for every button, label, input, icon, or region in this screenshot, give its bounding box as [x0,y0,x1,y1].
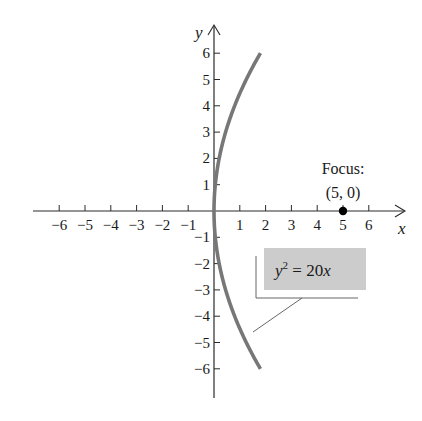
parabola-chart: xy −6−5−4−3−2−1123456−6−5−4−3−2−1123456 … [0,0,422,421]
focus-coords: (5, 0) [326,184,361,202]
x-tick-label: −2 [154,217,170,233]
callout-leader-line [253,298,302,332]
y-tick-label: −4 [194,308,210,324]
x-tick-label: 4 [313,217,321,233]
y-tick-label: 2 [203,150,211,166]
y-tick-label: 6 [203,45,211,61]
y-tick-label: −3 [194,282,210,298]
equation-label: y2 = 20x [273,259,331,280]
y-tick-label: 4 [203,98,211,114]
y-tick-label: 5 [203,72,211,88]
y-tick-label: 1 [203,177,211,193]
x-tick-label: 6 [365,217,373,233]
x-axis-label: x [397,219,406,238]
chart-canvas: xy −6−5−4−3−2−1123456−6−5−4−3−2−1123456 … [0,0,422,421]
x-tick-label: 5 [339,217,347,233]
y-tick-label: −1 [194,229,210,245]
y-axis-label: y [193,23,203,42]
y-tick-label: 3 [203,124,211,140]
y-tick-label: −2 [194,256,210,272]
focus-title: Focus: [322,160,365,177]
focus-point [339,207,347,215]
x-tick-label: −6 [51,217,67,233]
x-tick-label: 3 [288,217,296,233]
y-tick-label: −6 [194,361,210,377]
x-tick-label: −3 [129,217,145,233]
x-tick-label: −4 [103,217,119,233]
annotations: Focus:(5, 0)y2 = 20x [253,160,366,332]
x-tick-label: −5 [77,217,93,233]
x-tick-label: 2 [262,217,270,233]
y-tick-label: −5 [194,335,210,351]
x-tick-label: 1 [236,217,244,233]
